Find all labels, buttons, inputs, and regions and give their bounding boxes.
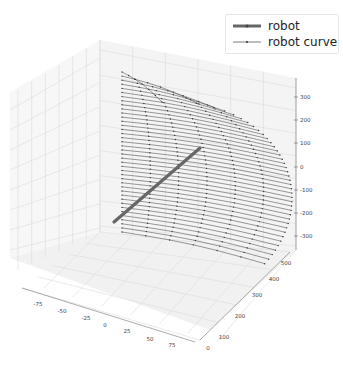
- svg-text:0: 0: [103, 322, 107, 328]
- svg-text:0: 0: [300, 164, 304, 170]
- svg-text:75: 75: [169, 342, 176, 348]
- svg-text:100: 100: [219, 334, 230, 340]
- svg-text:-300: -300: [300, 233, 313, 239]
- floor-pane: [10, 232, 296, 330]
- legend-item-robot: robot: [232, 19, 300, 33]
- svg-text:25: 25: [124, 328, 131, 334]
- svg-text:-25: -25: [82, 315, 91, 321]
- svg-text:-50: -50: [58, 308, 67, 314]
- svg-text:200: 200: [235, 313, 246, 319]
- legend-label-robot-curve: robot curve: [268, 35, 337, 49]
- svg-text:-75: -75: [34, 301, 43, 307]
- svg-text:50: 50: [147, 336, 154, 342]
- svg-text:300: 300: [300, 94, 311, 100]
- svg-text:-100: -100: [300, 187, 313, 193]
- legend: robot robot curve: [225, 14, 339, 54]
- legend-item-robot-curve: robot curve: [232, 35, 337, 49]
- robot-swatch-icon: [232, 19, 262, 33]
- svg-text:400: 400: [269, 276, 280, 282]
- svg-text:-200: -200: [300, 210, 313, 216]
- 3d-chart: -75-50-250255075010020030040050030020010…: [0, 0, 343, 367]
- robot-curve-swatch-icon: [232, 35, 262, 49]
- svg-text:200: 200: [300, 117, 311, 123]
- svg-text:100: 100: [300, 140, 311, 146]
- svg-text:500: 500: [281, 260, 292, 266]
- svg-text:300: 300: [252, 292, 263, 298]
- legend-label-robot: robot: [268, 19, 300, 33]
- svg-text:0: 0: [206, 345, 210, 351]
